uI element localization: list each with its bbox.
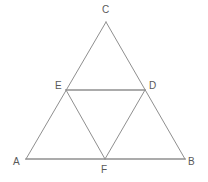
vertex-label-B: B — [188, 157, 195, 167]
vertex-label-D: D — [149, 81, 156, 91]
geometry-canvas — [0, 0, 208, 182]
vertex-label-E: E — [55, 81, 62, 91]
segment-midline-EF — [66, 90, 105, 159]
vertex-label-F: F — [101, 165, 107, 175]
vertex-label-A: A — [13, 157, 20, 167]
vertex-label-C: C — [102, 5, 109, 15]
geometry-figure: A B C D E F — [0, 0, 208, 182]
segment-midline-DF — [105, 90, 145, 159]
